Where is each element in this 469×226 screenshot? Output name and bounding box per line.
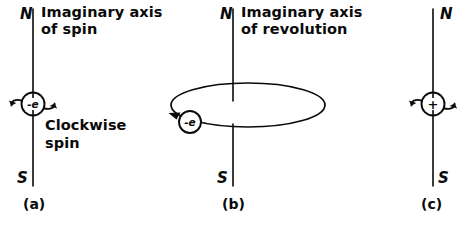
panel-b-axis-label-line1: Imaginary axis [241,4,363,21]
panel-a-charge-symbol: -e [22,98,44,110]
panel-b: N Imaginary axis of revolution -e S (b) [160,0,390,226]
panel-c-north-label: N [440,6,453,24]
panel-a-annotation-line2: spin [45,135,80,152]
panel-c-caption: (c) [421,196,442,213]
panel-b-south-label: S [217,170,228,188]
panel-a-axis-label-line1: Imaginary axis [41,4,163,21]
panel-c: N + S (c) [390,0,469,226]
panel-c-graphics [390,0,469,226]
panel-b-north-label: N [220,6,233,24]
panel-b-caption: (b) [222,196,245,213]
panel-c-south-label: S [438,170,449,188]
physics-figure: N Imaginary axis of spin -e Clockwise sp… [0,0,469,226]
panel-c-charge-symbol: + [422,97,444,112]
panel-a-north-label: N [20,6,33,24]
panel-a-axis-label-line2: of spin [41,21,97,38]
panel-a-south-label: S [17,170,28,188]
panel-a: N Imaginary axis of spin -e Clockwise sp… [0,0,160,226]
panel-b-charge-symbol: -e [179,116,201,128]
panel-a-caption: (a) [23,196,45,213]
panel-a-annotation-line1: Clockwise [45,117,127,134]
panel-b-axis-label-line2: of revolution [241,21,348,38]
